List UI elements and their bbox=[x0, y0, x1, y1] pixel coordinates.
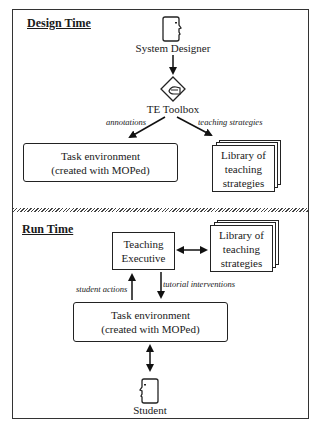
connector-arrows bbox=[0, 0, 320, 429]
